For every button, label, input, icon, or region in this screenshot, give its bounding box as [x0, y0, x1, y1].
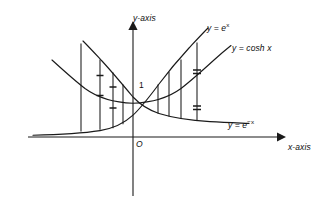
- curve-exp-neg-x: [83, 41, 249, 123]
- curve-label-cosh-x: y = cosh x: [232, 44, 272, 53]
- x-axis-arrowhead: [277, 132, 286, 141]
- curve-label-exp-x: y = ex: [207, 24, 229, 33]
- graph-canvas: [0, 0, 330, 223]
- curve-label-exp-x-exponent: x: [226, 21, 229, 28]
- y-axis-label: y-axis: [133, 14, 156, 23]
- origin-label: O: [136, 140, 143, 149]
- exponential-cosh-graph-figure: y-axis x-axis y = ex y = cosh x y = e−x …: [0, 0, 330, 223]
- curve-label-exp-neg-x-prefix: y = e: [228, 120, 247, 130]
- curve-cosh-x: [52, 46, 231, 104]
- y-intercept-unit-label: 1: [139, 81, 144, 90]
- curve-label-exp-neg-x-exponent: −x: [247, 118, 254, 125]
- curve-label-exp-neg-x: y = e−x: [228, 121, 254, 130]
- x-axis-label: x-axis: [288, 143, 311, 152]
- curve-label-exp-x-prefix: y = e: [207, 23, 226, 33]
